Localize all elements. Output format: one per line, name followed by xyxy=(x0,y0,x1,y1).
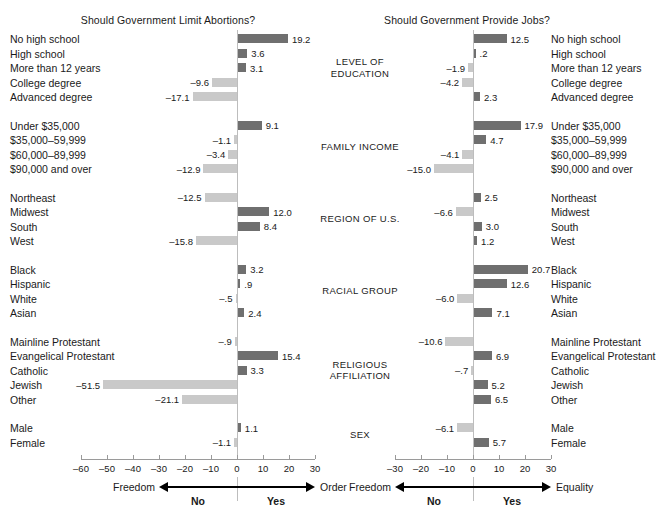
bar-value-label: .2 xyxy=(480,49,488,58)
bar xyxy=(238,351,278,360)
x-axis-line xyxy=(81,459,315,460)
bar xyxy=(203,164,237,173)
bar xyxy=(238,49,247,58)
bar xyxy=(474,222,482,231)
bar xyxy=(474,34,507,43)
category-label: Female xyxy=(551,438,586,448)
bar xyxy=(462,78,473,87)
category-label: Hispanic xyxy=(551,279,591,289)
arrow-line-right xyxy=(237,486,306,488)
bar-value-label: –6.6 xyxy=(434,208,453,217)
category-label: Hispanic xyxy=(10,279,50,289)
category-label: Female xyxy=(10,438,45,448)
bar xyxy=(474,121,521,130)
x-axis-line xyxy=(395,459,551,460)
direction-arrow-row xyxy=(159,481,315,493)
bar-value-label: –6.1 xyxy=(436,424,455,433)
bar-value-label: 9.1 xyxy=(266,121,279,130)
bar-value-label: 2.4 xyxy=(248,309,261,318)
bar-value-label: 15.4 xyxy=(282,352,301,361)
bar-value-label: 3.0 xyxy=(486,222,499,231)
category-label: Evangelical Protestant xyxy=(551,351,655,361)
x-axis-tick xyxy=(237,455,238,459)
bar-value-label: –.9 xyxy=(218,337,231,346)
category-label: Other xyxy=(551,395,577,405)
bar-value-label: 20.7 xyxy=(532,265,551,274)
bar-value-label: 2.5 xyxy=(485,193,498,202)
zero-line-left xyxy=(237,30,238,455)
bar xyxy=(457,294,473,303)
bar-value-label: –17.1 xyxy=(166,93,190,102)
bar-value-label: 3.1 xyxy=(250,64,263,73)
x-axis-tick xyxy=(473,455,474,459)
bar-value-label: 8.4 xyxy=(264,222,277,231)
bar xyxy=(238,423,241,432)
category-label: $90,000 and over xyxy=(551,164,633,174)
category-label: South xyxy=(10,222,37,232)
bar xyxy=(212,78,237,87)
arrow-line-left xyxy=(404,486,473,488)
bar xyxy=(193,92,237,101)
bar xyxy=(474,308,492,317)
category-label: Midwest xyxy=(551,207,590,217)
category-label: College degree xyxy=(551,78,622,88)
category-label: Black xyxy=(10,265,36,275)
category-label: Jewish xyxy=(551,380,583,390)
category-label: West xyxy=(10,236,34,246)
category-label: Catholic xyxy=(10,366,48,376)
category-label: Jewish xyxy=(10,380,42,390)
category-label: Other xyxy=(10,395,36,405)
arrow-head-left-icon xyxy=(395,482,404,492)
category-label: Northeast xyxy=(551,193,597,203)
bar xyxy=(228,150,237,159)
group-label: REGION OF U.S. xyxy=(300,213,420,225)
category-label: No high school xyxy=(551,34,620,44)
bar-value-label: 1.1 xyxy=(245,424,258,433)
x-axis-tick xyxy=(159,455,160,459)
bar-value-label: –21.1 xyxy=(155,395,179,404)
arrow-head-left-icon xyxy=(159,482,168,492)
bar xyxy=(238,279,240,288)
x-axis-tick xyxy=(133,455,134,459)
bar-value-label: –51.5 xyxy=(76,381,100,390)
category-label: High school xyxy=(10,49,65,59)
category-label: High school xyxy=(551,49,606,59)
bar xyxy=(471,366,473,375)
bar-value-label: –12.5 xyxy=(178,193,202,202)
bar-value-label: –9.6 xyxy=(191,78,210,87)
bar-value-label: –15.8 xyxy=(169,237,193,246)
x-axis-tick xyxy=(289,455,290,459)
category-label: Advanced degree xyxy=(10,92,92,102)
bar xyxy=(474,92,480,101)
bar xyxy=(434,164,473,173)
chart-panel-abortions: Should Government Limit Abortions? 19.23… xyxy=(0,0,336,521)
bar xyxy=(205,193,238,202)
category-label: College degree xyxy=(10,78,81,88)
bar-value-label: –10.6 xyxy=(419,337,443,346)
bar xyxy=(474,279,507,288)
bar-value-label: –15.0 xyxy=(407,165,431,174)
bar xyxy=(456,207,473,216)
bar xyxy=(238,63,246,72)
arrow-head-right-icon xyxy=(306,482,315,492)
category-label: $90,000 and over xyxy=(10,164,92,174)
category-label: Under $35,000 xyxy=(10,121,79,131)
bar-value-label: 3.6 xyxy=(251,49,264,58)
axis-sublabel-right: Yes xyxy=(267,496,285,507)
bar-value-label: 6.5 xyxy=(495,395,508,404)
bar-value-label: 1.2 xyxy=(481,237,494,246)
x-axis-tick xyxy=(211,455,212,459)
bar xyxy=(103,380,237,389)
bar-value-label: 4.7 xyxy=(490,136,503,145)
bar xyxy=(235,337,237,346)
group-label: LEVEL OF EDUCATION xyxy=(300,56,420,79)
x-axis-tick xyxy=(395,455,396,459)
axis-end-label-left: Freedom xyxy=(113,482,155,493)
bar xyxy=(462,150,473,159)
category-label: Black xyxy=(551,265,577,275)
bar-value-label: .9 xyxy=(244,280,252,289)
category-label: Mainline Protestant xyxy=(551,337,641,347)
bar-value-label: 6.9 xyxy=(496,352,509,361)
bar-value-label: –1.1 xyxy=(213,438,232,447)
category-label: Asian xyxy=(10,308,36,318)
